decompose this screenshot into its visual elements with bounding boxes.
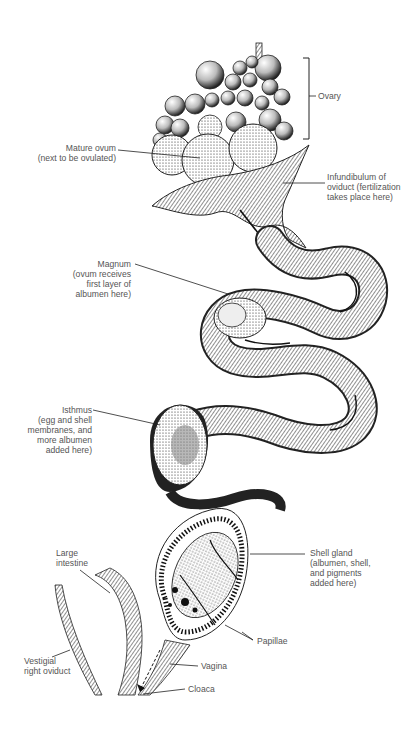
oviduct-coil (195, 240, 373, 439)
shell-gland (156, 508, 252, 640)
label-vagina: Vagina (201, 661, 227, 671)
illustration (0, 0, 406, 731)
vestigial-right-oviduct (55, 585, 102, 695)
label-mature-ovum: Mature ovum (next to be ovulated) (34, 143, 116, 163)
label-infundibulum: Infundibulum of oviduct (fertilization t… (327, 172, 401, 202)
ovary-bracket (303, 58, 309, 139)
magnum-ovum (214, 298, 266, 338)
label-vestigial-right-oviduct: Vestigial right oviduct (24, 656, 70, 676)
label-cloaca: Cloaca (188, 684, 215, 694)
label-ovary: Ovary (318, 91, 341, 101)
label-shell-gland: Shell gland (albumen, shell, and pigment… (310, 548, 371, 588)
label-large-intestine: Large intestine (56, 548, 88, 568)
label-isthmus: Isthmus (egg and shell membranes, and mo… (20, 405, 92, 455)
reproductive-tract-diagram: Ovary Mature ovum (next to be ovulated) … (0, 0, 406, 731)
vagina-tract (137, 640, 190, 695)
label-magnum: Magnum (ovum receives first layer of alb… (58, 259, 131, 299)
label-papillae: Papillae (257, 636, 288, 646)
